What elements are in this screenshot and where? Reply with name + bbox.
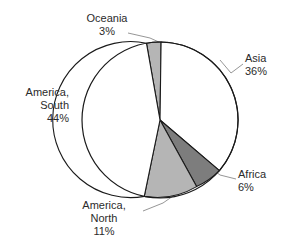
pie-label-america-south-value: 44% [3, 112, 69, 125]
pie-label-america-south-name-2: South [3, 99, 69, 112]
pie-label-africa: Africa 6% [238, 168, 286, 194]
pie-label-asia-name: Asia [245, 52, 288, 65]
pie-label-oceania-value: 3% [76, 25, 138, 38]
pie-label-america-north: America, North 11% [68, 199, 140, 238]
pie-chart-figure: Oceania 3% Asia 36% America, South 44% A… [0, 0, 288, 245]
pie-label-oceania: Oceania 3% [76, 12, 138, 38]
pie-label-america-north-name-2: North [68, 212, 140, 225]
pie-label-america-north-value: 11% [68, 225, 140, 238]
pie-label-oceania-name: Oceania [76, 12, 138, 25]
pie-slices [53, 42, 238, 198]
leader-line-asia [220, 60, 243, 73]
pie-label-africa-value: 6% [238, 181, 286, 194]
pie-label-asia-value: 36% [245, 65, 288, 78]
pie-label-america-south-name-1: America, [3, 86, 69, 99]
pie-label-asia: Asia 36% [245, 52, 288, 78]
pie-label-africa-name: Africa [238, 168, 286, 181]
pie-label-america-south: America, South 44% [3, 86, 69, 125]
pie-label-america-north-name-1: America, [68, 199, 140, 212]
